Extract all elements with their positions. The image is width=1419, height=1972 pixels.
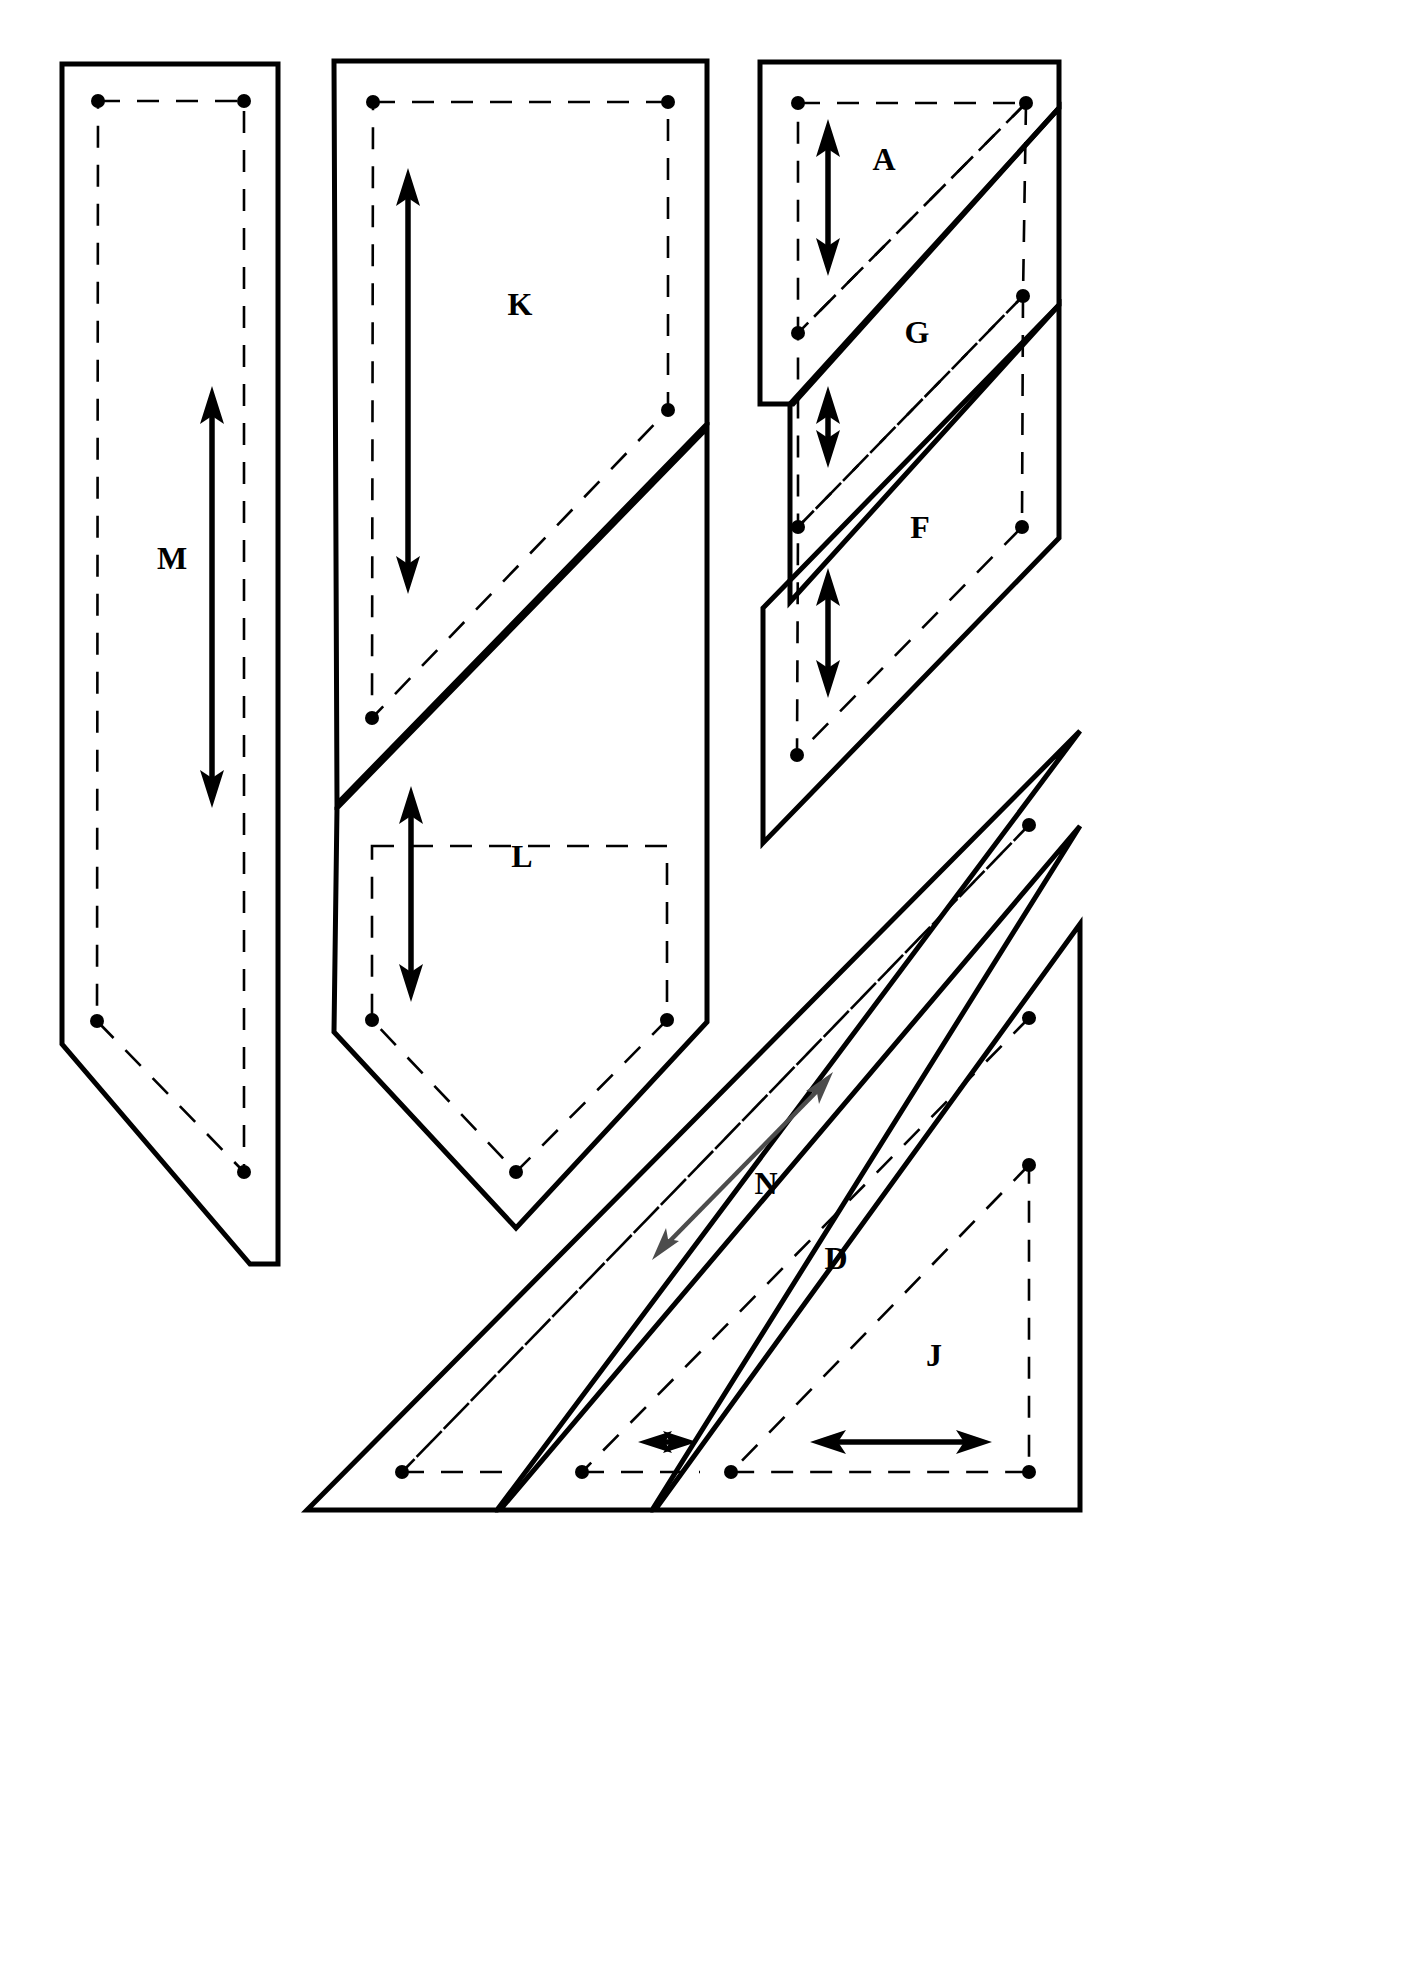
pivot-dot xyxy=(237,1165,251,1179)
pivot-dot xyxy=(366,95,380,109)
pivot-dot xyxy=(724,1465,738,1479)
piece-label-L: L xyxy=(511,838,532,874)
piece-label-J: J xyxy=(926,1337,942,1373)
pivot-dot xyxy=(575,1465,589,1479)
pivot-dot xyxy=(1022,1158,1036,1172)
pivot-dot xyxy=(790,748,804,762)
pivot-dot xyxy=(90,1014,104,1028)
pivot-dot xyxy=(661,403,675,417)
pivot-dot xyxy=(660,1013,674,1027)
pivot-dot xyxy=(237,94,251,108)
pivot-dot xyxy=(1015,520,1029,534)
pivot-dot xyxy=(365,1013,379,1027)
pivot-dot xyxy=(1022,1011,1036,1025)
piece-label-M: M xyxy=(157,540,187,576)
piece-label-G: G xyxy=(905,314,930,350)
pivot-dot xyxy=(661,95,675,109)
pivot-dot xyxy=(1022,1465,1036,1479)
pivot-dot xyxy=(395,1465,409,1479)
piece-label-K: K xyxy=(508,286,533,322)
pattern-sheet: M K xyxy=(0,0,1419,1972)
pivot-dot xyxy=(509,1165,523,1179)
piece-label-F: F xyxy=(910,509,930,545)
pivot-dot xyxy=(91,94,105,108)
pivot-dot xyxy=(1022,818,1036,832)
pivot-dot xyxy=(365,711,379,725)
pivot-dot xyxy=(791,96,805,110)
pattern-drawing-canvas: M K xyxy=(0,0,1419,1972)
piece-label-A: A xyxy=(872,141,895,177)
